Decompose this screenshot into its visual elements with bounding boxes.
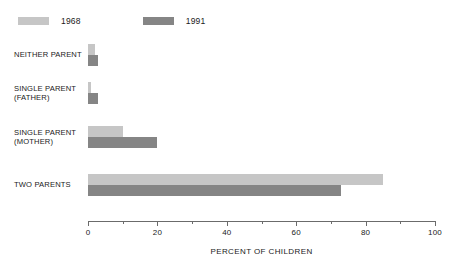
axis-tick-label: 60 xyxy=(292,229,301,237)
bar-group xyxy=(88,126,435,148)
bar-chart: 1968 1991 NEITHER PARENTSINGLE PARENT (F… xyxy=(0,0,449,274)
axis-tick-major xyxy=(366,221,367,226)
axis-tick-minor xyxy=(331,221,332,224)
axis-tick-minor xyxy=(262,221,263,224)
axis-tick-label: 20 xyxy=(153,229,162,237)
axis-tick-minor xyxy=(123,221,124,224)
bar-1991 xyxy=(88,55,98,66)
axis-tick-major xyxy=(435,221,436,226)
bar-group xyxy=(88,174,435,196)
axis-tick-major xyxy=(157,221,158,226)
chart-legend: 1968 1991 xyxy=(18,14,205,28)
axis-tick-major xyxy=(227,221,228,226)
category-row: NEITHER PARENT xyxy=(0,42,449,68)
category-label: SINGLE PARENT (MOTHER) xyxy=(14,128,84,147)
axis-tick-label: 0 xyxy=(86,229,91,237)
axis-tick-label: 80 xyxy=(361,229,370,237)
bar-group xyxy=(88,44,435,66)
category-row: TWO PARENTS xyxy=(0,172,449,198)
bar-1968 xyxy=(88,82,91,93)
legend-label-1968: 1968 xyxy=(61,17,81,26)
x-axis-title: PERCENT OF CHILDREN xyxy=(88,248,435,256)
legend-swatch-1991 xyxy=(143,17,174,25)
axis-tick-major xyxy=(296,221,297,226)
legend-swatch-1968 xyxy=(18,17,49,25)
bar-1968 xyxy=(88,174,383,185)
bar-1991 xyxy=(88,93,98,104)
legend-entry-1968: 1968 xyxy=(18,17,81,26)
legend-label-1991: 1991 xyxy=(186,17,206,26)
category-label: SINGLE PARENT (FATHER) xyxy=(14,84,84,103)
axis-tick-label: 40 xyxy=(222,229,231,237)
bar-1991 xyxy=(88,185,341,196)
bar-group xyxy=(88,82,435,104)
axis-tick-label: 100 xyxy=(428,229,442,237)
axis-tick-major xyxy=(88,221,89,226)
axis-tick-minor xyxy=(192,221,193,224)
category-row: SINGLE PARENT (FATHER) xyxy=(0,80,449,106)
bar-1968 xyxy=(88,44,95,55)
axis-tick-minor xyxy=(400,221,401,224)
category-label: TWO PARENTS xyxy=(14,180,84,189)
category-row: SINGLE PARENT (MOTHER) xyxy=(0,124,449,150)
bar-1991 xyxy=(88,137,157,148)
legend-entry-1991: 1991 xyxy=(143,17,206,26)
bar-1968 xyxy=(88,126,123,137)
category-label: NEITHER PARENT xyxy=(14,50,84,59)
plot-area: NEITHER PARENTSINGLE PARENT (FATHER)SING… xyxy=(0,36,449,221)
